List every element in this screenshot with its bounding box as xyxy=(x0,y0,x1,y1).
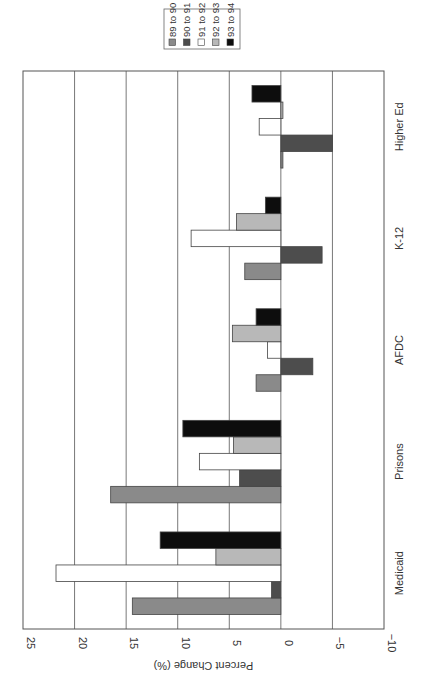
category-label: Higher Ed xyxy=(393,102,405,151)
bar xyxy=(281,152,283,169)
bar xyxy=(281,102,283,119)
category-labels: MedicaidPrisonsAFDCK-12Higher Ed xyxy=(393,102,405,595)
legend-swatch xyxy=(227,39,234,46)
legend: 89 to 9090 to 9191 to 9292 to 9393 to 94 xyxy=(164,3,240,49)
legend-label: 92 to 93 xyxy=(210,3,221,37)
bar xyxy=(199,453,280,470)
bar xyxy=(233,437,280,454)
bar xyxy=(245,263,281,280)
bar xyxy=(272,581,281,598)
legend-label: 89 to 90 xyxy=(167,3,178,37)
bars xyxy=(56,86,332,615)
bar xyxy=(259,119,281,136)
bar xyxy=(252,86,281,103)
bar xyxy=(267,342,280,359)
legend-swatch xyxy=(198,39,205,46)
bar xyxy=(216,548,281,565)
bar xyxy=(281,247,322,264)
legend-swatch xyxy=(213,39,220,46)
tick-label: −5 xyxy=(334,637,346,650)
tick-label: 5 xyxy=(231,640,243,646)
value-axis-title: Percent Change (%) xyxy=(154,660,254,672)
tick-label: −10 xyxy=(386,634,398,653)
category-label: AFDC xyxy=(393,335,405,365)
bar xyxy=(281,135,333,152)
category-label: Prisons xyxy=(393,443,405,480)
tick-label: 0 xyxy=(283,640,295,646)
legend-swatch xyxy=(184,39,191,46)
bar xyxy=(160,532,281,549)
tick-label: 15 xyxy=(128,637,140,649)
tick-label: 20 xyxy=(77,637,89,649)
category-label: K-12 xyxy=(393,227,405,250)
bar xyxy=(132,598,281,615)
bar xyxy=(281,358,313,375)
value-axis-tick-labels: 2520151050−5−10 xyxy=(25,634,398,653)
tick-label: 25 xyxy=(25,637,37,649)
bar xyxy=(183,420,281,437)
bar xyxy=(265,197,280,214)
legend-label: 93 to 94 xyxy=(225,3,236,37)
legend-label: 90 to 91 xyxy=(181,3,192,37)
tick-label: 10 xyxy=(180,637,192,649)
bar xyxy=(240,470,281,487)
bar xyxy=(256,375,281,392)
bar xyxy=(56,565,281,582)
bar xyxy=(191,230,281,247)
bar xyxy=(111,486,281,503)
bar-chart: 2520151050−5−10 MedicaidPrisonsAFDCK-12H… xyxy=(0,0,427,681)
bar xyxy=(232,325,280,342)
bar xyxy=(237,214,281,231)
category-label: Medicaid xyxy=(393,551,405,595)
legend-label: 91 to 92 xyxy=(196,3,207,37)
bar xyxy=(256,309,281,326)
legend-swatch xyxy=(169,39,176,46)
